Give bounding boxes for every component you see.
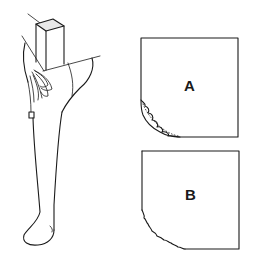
template-a-label: A <box>184 78 195 93</box>
leg-shaft-right <box>54 112 62 230</box>
construction-line-top <box>28 14 40 23</box>
knee-seam <box>68 63 73 96</box>
knee-bracket-curve <box>62 58 93 112</box>
shell-carving <box>28 70 52 118</box>
cabriole-leg-drawing <box>0 0 256 263</box>
leg-shaft-left-and-foot <box>24 118 54 245</box>
post-block-top-face <box>36 19 64 31</box>
template-b-rough-edge <box>142 210 185 249</box>
shell-base-block <box>29 112 34 118</box>
diagram-canvas: A B <box>0 0 256 263</box>
foot-detail <box>50 226 52 232</box>
construction-line-left <box>22 36 44 71</box>
knee-left-edge <box>24 43 28 82</box>
cabriole-leg <box>22 14 100 245</box>
template-b-label: B <box>185 187 196 202</box>
template-a-scallops <box>141 100 180 137</box>
apron-line <box>43 56 100 71</box>
